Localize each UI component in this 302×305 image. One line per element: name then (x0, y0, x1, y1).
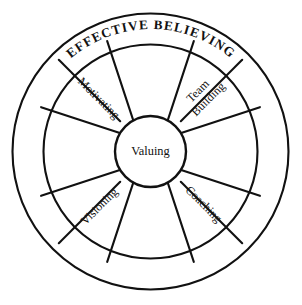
center-label: Valuing (131, 144, 170, 158)
spoke-label-coaching: Coaching (183, 183, 225, 225)
spoke-label-team-building: Team Building (179, 70, 228, 119)
banner-title-textpath: EFFECTIVE BELIEVING (63, 17, 238, 61)
spoke-label-visioning: Visioning (78, 185, 121, 228)
wheel-diagram-canvas: EFFECTIVE BELIEVING Valuing Motivating T… (0, 0, 302, 305)
spoke-label-motivating: Motivating (75, 74, 123, 122)
effective-believing-diagram: EFFECTIVE BELIEVING Valuing Motivating T… (0, 0, 302, 305)
banner-title: EFFECTIVE BELIEVING (63, 17, 238, 61)
